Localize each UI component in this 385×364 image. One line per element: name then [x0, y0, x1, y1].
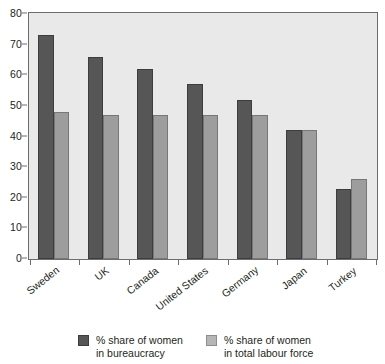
bar-sweden-series1	[54, 112, 70, 259]
y-axis-tick-label: 40	[10, 130, 22, 142]
legend-label-bureaucracy-line2: in bureaucracy	[96, 347, 183, 360]
legend-item-bureaucracy: % share of women in bureaucracy	[78, 334, 183, 359]
legend-label-bureaucracy: % share of women in bureaucracy	[96, 334, 183, 359]
y-axis-tick-label: 30	[10, 160, 22, 172]
legend-swatch-labour-force	[206, 335, 217, 346]
x-axis-label-sweden: Sweden	[24, 264, 61, 297]
bar-sweden-series0	[38, 35, 54, 259]
y-axis-tick-mark	[22, 43, 27, 44]
y-axis-tick-label: 20	[10, 191, 22, 203]
bar-uk-series0	[88, 57, 104, 259]
bar-turkey-series0	[336, 189, 352, 259]
bar-canada-series1	[153, 115, 169, 259]
plot-area	[28, 12, 378, 260]
legend-label-labour-force-line1: % share of women	[224, 334, 313, 347]
y-axis-tick-mark	[22, 135, 27, 136]
bar-united-states-series1	[203, 115, 219, 259]
y-axis-tick-label: 70	[10, 38, 22, 50]
y-axis-tick-mark	[22, 104, 27, 105]
y-axis-tick-mark	[22, 227, 27, 228]
x-axis-label-japan: Japan	[279, 264, 309, 291]
bar-united-states-series0	[187, 84, 203, 259]
x-axis-label-turkey: Turkey	[326, 264, 358, 293]
y-axis-tick-label: 10	[10, 221, 22, 233]
legend-label-bureaucracy-line1: % share of women	[96, 334, 183, 347]
x-axis-label-united-states: United States	[153, 264, 210, 312]
bar-japan-series0	[286, 130, 302, 259]
bar-turkey-series1	[351, 179, 367, 259]
bar-japan-series1	[302, 130, 318, 259]
bar-canada-series0	[137, 69, 153, 259]
bar-uk-series1	[103, 115, 119, 259]
y-axis: 01020304050607080	[0, 12, 28, 260]
bar-chart: 01020304050607080 SwedenUKCanadaUnited S…	[0, 0, 385, 364]
bar-germany-series1	[252, 115, 268, 259]
legend-label-labour-force-line2: in total labour force	[224, 347, 313, 360]
y-axis-tick-label: 60	[10, 68, 22, 80]
legend-swatch-bureaucracy	[78, 335, 89, 346]
x-axis-labels: SwedenUKCanadaUnited StatesGermanyJapanT…	[0, 262, 385, 314]
y-axis-tick-label: 80	[10, 7, 22, 19]
y-axis-tick-mark	[22, 74, 27, 75]
legend-item-labour-force: % share of women in total labour force	[206, 334, 313, 359]
x-axis-label-canada: Canada	[124, 264, 160, 296]
y-axis-tick-mark	[22, 196, 27, 197]
legend-label-labour-force: % share of women in total labour force	[224, 334, 313, 359]
y-axis-tick-mark	[22, 258, 27, 259]
y-axis-tick-label: 50	[10, 99, 22, 111]
y-axis-tick-mark	[22, 13, 27, 14]
legend: % share of women in bureaucracy % share …	[78, 334, 378, 364]
bars-container	[29, 13, 377, 259]
bar-germany-series0	[237, 100, 253, 259]
y-axis-tick-mark	[22, 166, 27, 167]
x-axis-label-germany: Germany	[219, 264, 260, 300]
x-axis-label-uk: UK	[92, 264, 111, 282]
